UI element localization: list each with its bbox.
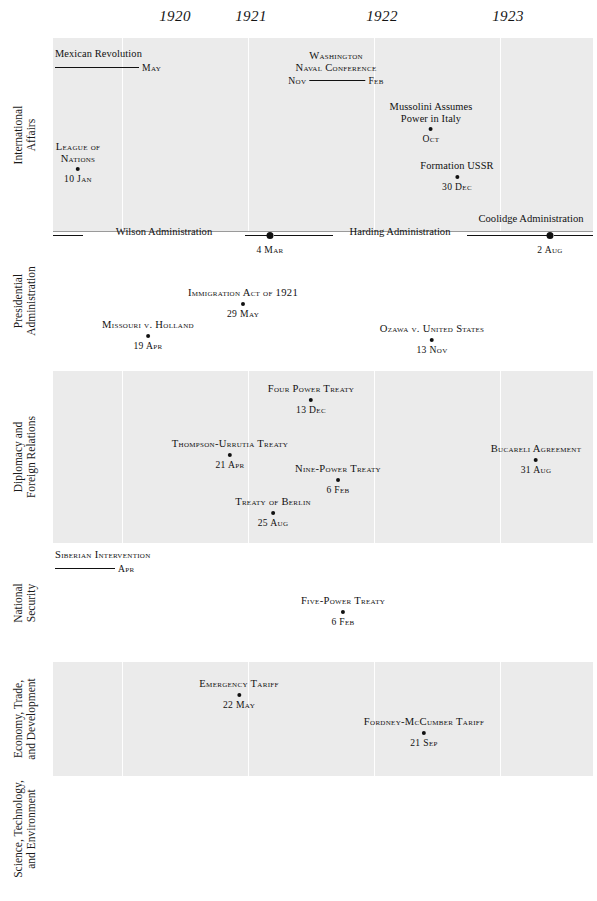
event-missouri-v-holland: Missouri v. Holland 19 Apr <box>102 319 194 351</box>
row-label-line1: Diplomacy and <box>12 422 24 493</box>
row-label-line1: Science, Technology, <box>12 780 24 878</box>
year-axis: 1920 1921 1922 1923 <box>0 0 597 38</box>
admin-transition-dot-2 <box>547 232 554 239</box>
event-title: Four Power Treaty <box>268 383 354 395</box>
admin-line-harding-left <box>274 235 333 236</box>
event-date: May <box>139 62 164 73</box>
event-title-line1: League of <box>56 141 101 153</box>
event-mussolini-assumes-power: Mussolini Assumes Power in Italy Oct <box>390 101 473 144</box>
event-title: Five-Power Treaty <box>301 595 385 607</box>
event-marker-dot <box>455 175 459 179</box>
event-marker-dot <box>76 167 80 171</box>
row-label-line2: Security <box>25 583 38 623</box>
event-date: 31 Aug <box>491 464 582 475</box>
gridline-1922 <box>374 38 375 881</box>
band-economy-trade-development <box>53 662 593 776</box>
band-science-technology-environment <box>53 776 593 881</box>
event-date: 29 May <box>188 308 298 319</box>
event-title-line2: Power in Italy <box>390 113 473 125</box>
event-date-end: Feb <box>365 75 386 86</box>
event-date: Apr <box>115 563 138 574</box>
event-date: 13 Dec <box>268 404 354 415</box>
event-siberian-intervention: Siberian Intervention Apr <box>55 549 151 574</box>
event-emergency-tariff: Emergency Tariff 22 May <box>199 678 278 710</box>
event-date: 21 Sep <box>364 737 484 748</box>
event-marker-dot <box>534 458 538 462</box>
row-label-international-affairs: International Affairs <box>0 38 50 231</box>
event-five-power-treaty: Five-Power Treaty 6 Feb <box>301 595 385 627</box>
span-rule <box>55 568 115 569</box>
event-league-of-nations: League of Nations 10 Jan <box>56 141 101 184</box>
event-marker-dot <box>241 302 245 306</box>
event-span: May <box>55 62 164 73</box>
event-treaty-of-berlin: Treaty of Berlin 25 Aug <box>235 496 311 528</box>
event-date: 13 Nov <box>380 344 485 355</box>
event-title-line2: Nations <box>56 153 101 165</box>
plot-area: Mexican Revolution May Washington Naval … <box>53 38 593 881</box>
event-nine-power-treaty: Nine-Power Treaty 6 Feb <box>295 463 381 495</box>
event-title: Siberian Intervention <box>55 549 151 561</box>
event-fordney-mccumber-tariff: Fordney-McCumber Tariff 21 Sep <box>364 716 484 748</box>
row-label-line1: International <box>12 105 24 164</box>
event-title-line1: Mussolini Assumes <box>390 101 473 113</box>
event-marker-dot <box>336 478 340 482</box>
event-title: Thompson-Urrutia Treaty <box>172 438 288 450</box>
event-ozawa-v-united-states: Ozawa v. United States 13 Nov <box>380 323 485 355</box>
event-date: 22 May <box>199 699 278 710</box>
event-span: Nov Feb <box>285 75 386 86</box>
event-title-line1: Washington <box>285 50 386 62</box>
event-date: 30 Dec <box>420 181 493 192</box>
event-title: Formation USSR <box>420 160 493 172</box>
event-marker-dot <box>422 731 426 735</box>
row-label-line2: Foreign Relations <box>25 416 38 498</box>
year-tick-1922: 1922 <box>366 8 398 25</box>
event-date: 19 Apr <box>102 340 194 351</box>
event-title: Mexican Revolution <box>55 48 164 60</box>
year-tick-1920: 1920 <box>159 8 191 25</box>
row-label-science-technology-environment: Science, Technology, and Environment <box>0 776 50 881</box>
admin-line-harding-right <box>467 235 550 236</box>
event-title: Bucareli Agreement <box>491 443 582 455</box>
row-label-line2: and Environment <box>25 780 38 878</box>
event-marker-dot <box>309 398 313 402</box>
row-label-line2: Administration <box>25 266 38 336</box>
event-date: Oct <box>390 133 473 144</box>
event-date-start: Nov <box>285 75 309 86</box>
event-marker-dot <box>146 334 150 338</box>
row-label-presidential-administration: Presidential Administration <box>0 231 50 371</box>
event-date: 25 Aug <box>235 517 311 528</box>
event-immigration-act-1921: Immigration Act of 1921 29 May <box>188 287 298 319</box>
admin-label-coolidge: Coolidge Administration <box>475 213 586 224</box>
admin-label-wilson: Wilson Administration <box>113 226 215 237</box>
admin-line-coolidge <box>554 235 593 236</box>
year-tick-1923: 1923 <box>492 8 524 25</box>
timeline-chart: 1920 1921 1922 1923 International Affair… <box>0 0 597 901</box>
event-bucareli-agreement: Bucareli Agreement 31 Aug <box>491 443 582 475</box>
admin-line-wilson-left <box>53 235 83 236</box>
event-title: Treaty of Berlin <box>235 496 311 508</box>
row-label-line2: and Development <box>25 678 38 759</box>
span-rule <box>55 67 139 68</box>
event-span: Apr <box>55 563 151 574</box>
event-marker-dot <box>271 511 275 515</box>
event-title: Emergency Tariff <box>199 678 278 690</box>
row-label-national-security: National Security <box>0 543 50 662</box>
admin-transition-dot-1 <box>267 232 274 239</box>
admin-transition-date-2: 2 Aug <box>537 244 562 255</box>
event-title: Immigration Act of 1921 <box>188 287 298 299</box>
event-title: Nine-Power Treaty <box>295 463 381 475</box>
event-four-power-treaty: Four Power Treaty 13 Dec <box>268 383 354 415</box>
row-label-line2: Affairs <box>25 105 38 164</box>
gridline-1920 <box>122 38 123 881</box>
event-washington-naval-conference: Washington Naval Conference Nov Feb <box>285 50 386 86</box>
event-title: Ozawa v. United States <box>380 323 485 335</box>
row-label-diplomacy-foreign-relations: Diplomacy and Foreign Relations <box>0 371 50 543</box>
event-date: 10 Jan <box>56 173 101 184</box>
event-marker-dot <box>341 610 345 614</box>
event-title: Missouri v. Holland <box>102 319 194 331</box>
row-label-economy-trade-development: Economy, Trade, and Development <box>0 662 50 776</box>
admin-transition-date-1: 4 Mar <box>256 244 283 255</box>
event-marker-dot <box>237 693 241 697</box>
event-marker-dot <box>228 453 232 457</box>
event-date: 6 Feb <box>295 484 381 495</box>
